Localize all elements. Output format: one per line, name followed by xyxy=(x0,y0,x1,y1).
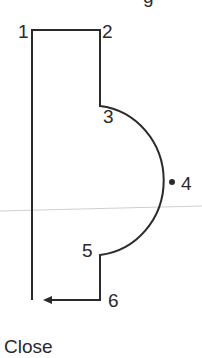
path-diagram xyxy=(0,0,202,358)
point-label-5: 5 xyxy=(82,241,93,260)
guide-line xyxy=(0,206,202,211)
close-label: Close xyxy=(4,337,53,356)
shape-outline xyxy=(32,30,164,300)
point-label-1: 1 xyxy=(18,22,29,41)
point-label-6: 6 xyxy=(108,291,119,310)
arrow-head-icon xyxy=(43,296,52,304)
point-label-4: 4 xyxy=(181,174,192,193)
point-label-2: 2 xyxy=(102,22,113,41)
point-4-marker xyxy=(169,179,175,185)
point-label-3: 3 xyxy=(103,107,114,126)
